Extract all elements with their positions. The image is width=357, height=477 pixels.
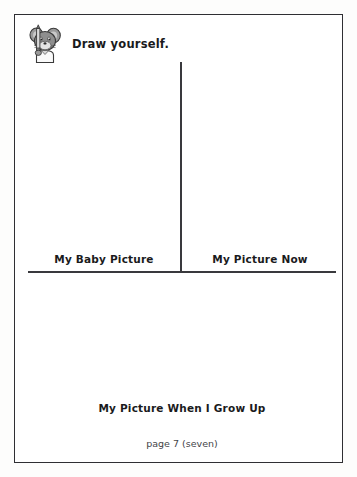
instruction-text: Draw yourself. xyxy=(72,37,169,51)
page-number-footer: page 7 (seven) xyxy=(28,438,336,449)
page-border xyxy=(14,14,343,463)
horizontal-divider-rule xyxy=(28,271,336,273)
caption-my-baby-picture: My Baby Picture xyxy=(30,253,178,265)
worksheet-page: Draw yourself. My Baby Picture My Pictur… xyxy=(0,0,357,477)
worksheet-header: Draw yourself. xyxy=(28,24,169,64)
vertical-divider-rule xyxy=(180,62,182,273)
caption-my-picture-now: My Picture Now xyxy=(186,253,334,265)
caption-my-picture-when-i-grow-up: My Picture When I Grow Up xyxy=(28,402,336,414)
mouse-with-pencil-icon xyxy=(28,24,62,64)
